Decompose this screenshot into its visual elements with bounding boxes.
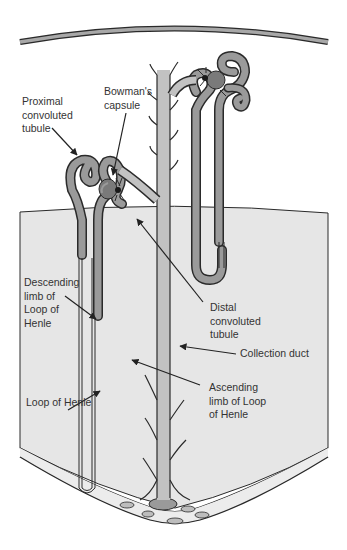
label-collection-duct: Collection duct xyxy=(240,347,309,361)
label-bowmans-capsule: Bowman's capsule xyxy=(104,85,152,112)
nephron-diagram: Proximal convoluted tubule Bowman's caps… xyxy=(0,0,347,550)
label-ascending-limb: Ascending limb of Loop of Henle xyxy=(209,381,266,422)
label-distal-convoluted-tubule: Distal convoluted tubule xyxy=(210,301,261,342)
label-loop-of-henle: Loop of Henle xyxy=(26,396,91,410)
nephron-illustration xyxy=(0,0,347,550)
label-proximal-convoluted-tubule: Proximal convoluted tubule xyxy=(22,95,73,136)
label-descending-limb: Descending limb of Loop of Henle xyxy=(24,276,79,330)
